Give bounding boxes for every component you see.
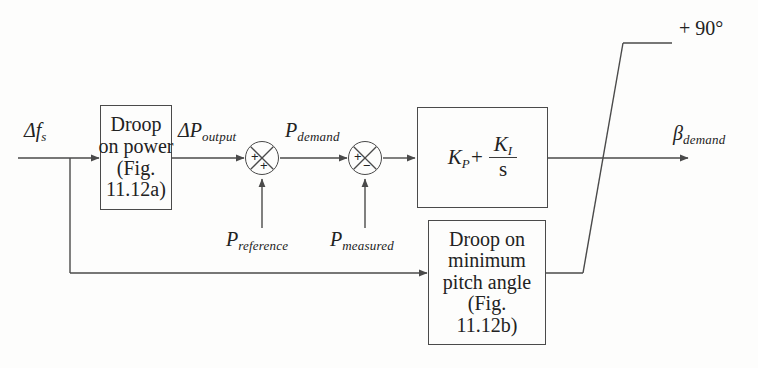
summing-junction-2[interactable]: + − [348,141,382,175]
input-frequency-subscript: s [41,129,46,144]
droop-on-power-line-2: on power [99,136,174,158]
power-measured-subscript: measured [342,238,394,253]
power-reference-subscript: reference [238,238,288,253]
power-reference-base: P [226,228,238,250]
power-demand-subscript: demand [297,129,339,144]
pi-plus-sign: + [471,146,483,169]
power-demand-base: P [285,119,297,141]
block-droop-on-minimum-pitch-angle[interactable]: Droop on minimum pitch angle (Fig. 11.12… [428,220,546,345]
power-measured-base: P [330,228,342,250]
pitch-droop-line-2: minimum [448,250,526,272]
block-diagram-figure: Droop on power (Fig. 11.12a) KP + KI s D… [0,0,758,368]
pi-kp: K [448,145,462,169]
droop-on-power-line-1: Droop [110,114,161,136]
droop-on-power-line-3: (Fig. [117,158,155,180]
pitch-droop-line-5: 11.12b) [457,315,518,337]
input-frequency-base: Δf [24,119,41,141]
label-power-reference: Preference [226,229,288,249]
pitch-droop-line-4: (Fig. [468,293,506,315]
sum2-bottom-sign: − [363,159,371,172]
block-droop-on-power[interactable]: Droop on power (Fig. 11.12a) [100,105,172,210]
pi-denominator: s [499,158,507,180]
sum1-left-sign: + [251,150,259,163]
pitch-droop-line-1: Droop on [449,229,525,251]
pi-transfer-function: KP + KI s [448,134,518,180]
droop-output-subscript: output [202,129,236,144]
pitch-demand-base: β [673,122,683,144]
droop-on-power-line-4: 11.12a) [106,179,166,201]
sum1-bottom-sign: + [260,159,268,172]
label-input-frequency: Δfs [24,120,47,140]
pitch-demand-subscript: demand [683,132,725,147]
label-power-demand: Pdemand [285,120,340,140]
label-power-measured: Pmeasured [330,229,394,249]
label-limiter-upper-limit: + 90° [679,18,723,38]
droop-output-base: ΔP [178,119,202,141]
pi-ki-subscript: I [508,143,513,158]
pi-integral-fraction: KI s [489,134,518,180]
label-pitch-demand: βdemand [673,123,725,143]
block-pi-controller[interactable]: KP + KI s [417,107,548,208]
pitch-droop-line-3: pitch angle [443,272,531,294]
summing-junction-1[interactable]: + + [245,141,279,175]
pi-ki: K [494,132,508,156]
pi-kp-subscript: P [462,156,470,171]
sum2-left-sign: + [354,150,362,163]
label-droop-output: ΔPoutput [178,120,236,140]
